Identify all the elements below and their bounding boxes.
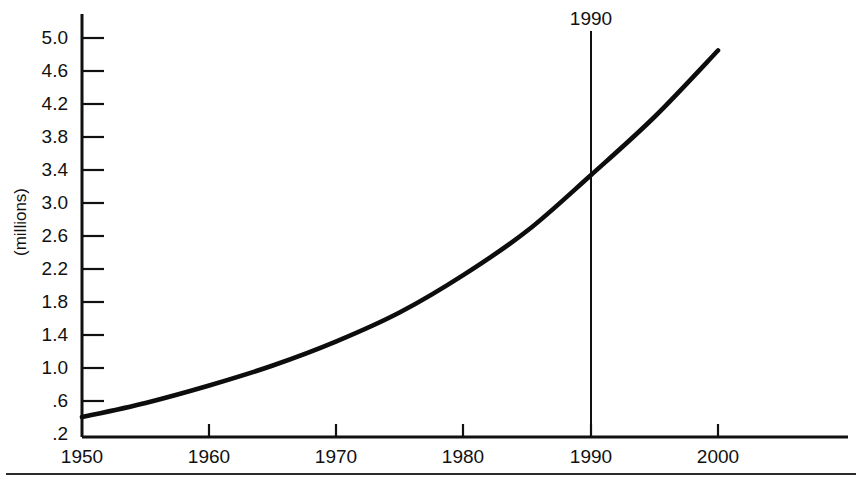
y-tick-label: 3.4 bbox=[16, 160, 68, 179]
x-tick-label: 1960 bbox=[164, 447, 254, 466]
population-curve bbox=[82, 51, 718, 418]
y-tick-label: 2.2 bbox=[16, 259, 68, 278]
x-tick-label: 2000 bbox=[673, 447, 763, 466]
chart-plot-area bbox=[0, 0, 862, 484]
y-tick-label: .2 bbox=[16, 424, 68, 443]
y-tick-label: 4.6 bbox=[16, 61, 68, 80]
chart-page: (millions) 5.0 4.6 4.2 3.8 3.4 3.0 2.6 2… bbox=[0, 0, 862, 484]
x-tick-marks bbox=[209, 424, 718, 437]
y-tick-label: 1.4 bbox=[16, 325, 68, 344]
y-tick-label: 4.2 bbox=[16, 94, 68, 113]
year-marker-label: 1990 bbox=[546, 9, 636, 28]
x-tick-label: 1980 bbox=[418, 447, 508, 466]
x-tick-label: 1970 bbox=[291, 447, 381, 466]
y-tick-marks bbox=[82, 38, 104, 401]
y-tick-label: 1.0 bbox=[16, 358, 68, 377]
y-tick-label: .6 bbox=[16, 391, 68, 410]
y-tick-label: 3.8 bbox=[16, 127, 68, 146]
x-tick-label: 1950 bbox=[37, 447, 127, 466]
y-tick-label: 3.0 bbox=[16, 193, 68, 212]
y-tick-label: 5.0 bbox=[16, 28, 68, 47]
x-tick-label: 1990 bbox=[546, 447, 636, 466]
y-tick-label: 1.8 bbox=[16, 292, 68, 311]
y-tick-label: 2.6 bbox=[16, 226, 68, 245]
